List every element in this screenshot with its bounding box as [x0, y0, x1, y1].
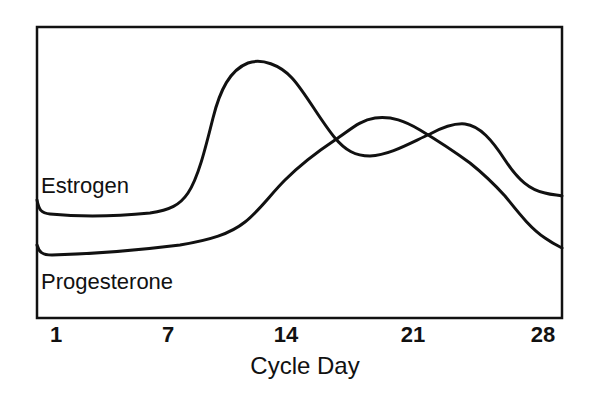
x-tick-7: 7 [162, 324, 174, 346]
x-tick-14: 14 [274, 324, 298, 346]
estrogen-label: Estrogen [41, 175, 129, 197]
x-tick-21: 21 [401, 324, 425, 346]
progesterone-label: Progesterone [41, 271, 173, 293]
x-tick-28: 28 [531, 324, 555, 346]
x-tick-1: 1 [50, 324, 62, 346]
x-axis-label: Cycle Day [250, 354, 359, 378]
hormone-chart [0, 0, 601, 406]
